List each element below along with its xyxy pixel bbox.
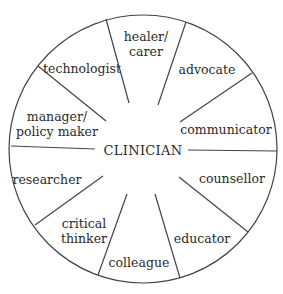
segment-healer-carer: healer/ carer: [124, 29, 168, 59]
segment-communicator: communicator: [180, 122, 271, 137]
segment-label-line2: thinker: [61, 231, 107, 246]
segment-advocate: advocate: [179, 62, 236, 77]
segment-colleague: colleague: [109, 255, 170, 270]
segment-label-line2: policy maker: [16, 124, 98, 139]
segment-label-line1: critical: [61, 216, 107, 231]
segment-counsellor: counsellor: [199, 171, 265, 186]
segment-label-line1: manager/: [16, 109, 98, 124]
segment-manager-policy-maker: manager/ policy maker: [16, 109, 98, 139]
segment-critical-thinker: critical thinker: [61, 216, 107, 246]
center-label: CLINICIAN: [104, 143, 183, 158]
segment-researcher: researcher: [12, 172, 81, 187]
segment-label-line1: healer/: [124, 29, 168, 44]
segment-educator: educator: [174, 231, 230, 246]
segment-technologist: technologist: [43, 61, 121, 76]
segment-label-line2: carer: [124, 44, 168, 59]
